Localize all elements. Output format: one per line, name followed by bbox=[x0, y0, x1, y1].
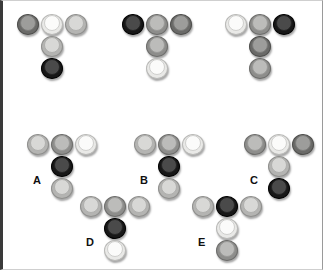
token-B-token-top-left[interactable] bbox=[134, 133, 154, 153]
token-face bbox=[20, 15, 36, 31]
token-face bbox=[83, 197, 99, 213]
token-q1-token-bottom bbox=[41, 57, 61, 77]
token-q2-token-top-center bbox=[146, 13, 166, 33]
token-q3-token-top-right bbox=[273, 13, 293, 33]
token-E-token-middle[interactable] bbox=[216, 217, 236, 237]
token-face bbox=[54, 135, 70, 151]
token-face bbox=[252, 15, 268, 31]
token-face bbox=[107, 219, 123, 235]
token-face bbox=[219, 219, 235, 235]
token-q2-token-middle bbox=[146, 35, 166, 55]
token-A-token-middle[interactable] bbox=[51, 155, 71, 175]
token-face bbox=[149, 15, 165, 31]
token-C-token-bottom[interactable] bbox=[268, 177, 288, 197]
token-D-token-top-left[interactable] bbox=[80, 195, 100, 215]
token-face bbox=[185, 135, 201, 151]
option-label-E[interactable]: E bbox=[198, 237, 206, 248]
token-face bbox=[54, 179, 70, 195]
token-face bbox=[295, 135, 311, 151]
token-face bbox=[149, 59, 165, 75]
token-D-token-top-right[interactable] bbox=[128, 195, 148, 215]
token-face bbox=[195, 197, 211, 213]
token-q3-token-top-left bbox=[225, 13, 245, 33]
token-face bbox=[271, 135, 287, 151]
token-C-token-middle[interactable] bbox=[268, 155, 288, 175]
option-label-D[interactable]: D bbox=[86, 237, 94, 248]
token-q1-token-top-center bbox=[41, 13, 61, 33]
token-face bbox=[78, 135, 94, 151]
token-face bbox=[161, 179, 177, 195]
token-face bbox=[107, 197, 123, 213]
token-E-token-top-left[interactable] bbox=[192, 195, 212, 215]
token-E-token-top-center[interactable] bbox=[216, 195, 236, 215]
token-face bbox=[131, 197, 147, 213]
token-face bbox=[30, 135, 46, 151]
token-B-token-top-right[interactable] bbox=[182, 133, 202, 153]
token-q3-token-top-center bbox=[249, 13, 269, 33]
option-label-C[interactable]: C bbox=[250, 175, 258, 186]
token-face bbox=[247, 135, 263, 151]
token-C-token-top-left[interactable] bbox=[244, 133, 264, 153]
option-label-A[interactable]: A bbox=[33, 175, 41, 186]
token-D-token-top-center[interactable] bbox=[104, 195, 124, 215]
token-B-token-top-center[interactable] bbox=[158, 133, 178, 153]
token-q2-token-bottom bbox=[146, 57, 166, 77]
puzzle-panel: ABCDE bbox=[0, 0, 323, 270]
token-face bbox=[173, 15, 189, 31]
token-q1-token-middle bbox=[41, 35, 61, 55]
token-face bbox=[44, 59, 60, 75]
token-q2-token-top-right bbox=[170, 13, 190, 33]
token-face bbox=[137, 135, 153, 151]
token-q3-token-bottom bbox=[249, 57, 269, 77]
token-face bbox=[54, 157, 70, 173]
token-face bbox=[219, 241, 235, 257]
token-face bbox=[107, 241, 123, 257]
token-q2-token-top-left bbox=[122, 13, 142, 33]
token-D-token-middle[interactable] bbox=[104, 217, 124, 237]
token-B-token-bottom[interactable] bbox=[158, 177, 178, 197]
token-face bbox=[161, 135, 177, 151]
token-B-token-middle[interactable] bbox=[158, 155, 178, 175]
token-face bbox=[243, 197, 259, 213]
token-q1-token-top-left bbox=[17, 13, 37, 33]
token-C-token-top-right[interactable] bbox=[292, 133, 312, 153]
token-q3-token-middle bbox=[249, 35, 269, 55]
token-face bbox=[228, 15, 244, 31]
token-face bbox=[44, 15, 60, 31]
token-face bbox=[252, 37, 268, 53]
token-A-token-bottom[interactable] bbox=[51, 177, 71, 197]
token-face bbox=[161, 157, 177, 173]
token-D-token-bottom[interactable] bbox=[104, 239, 124, 259]
token-face bbox=[125, 15, 141, 31]
token-E-token-top-right[interactable] bbox=[240, 195, 260, 215]
token-face bbox=[271, 157, 287, 173]
token-q1-token-top-right bbox=[65, 13, 85, 33]
token-face bbox=[68, 15, 84, 31]
token-A-token-top-left[interactable] bbox=[27, 133, 47, 153]
token-face bbox=[44, 37, 60, 53]
token-C-token-top-center[interactable] bbox=[268, 133, 288, 153]
token-face bbox=[149, 37, 165, 53]
token-E-token-bottom[interactable] bbox=[216, 239, 236, 259]
token-face bbox=[252, 59, 268, 75]
token-face bbox=[276, 15, 292, 31]
option-label-B[interactable]: B bbox=[140, 175, 148, 186]
token-A-token-top-right[interactable] bbox=[75, 133, 95, 153]
token-face bbox=[219, 197, 235, 213]
token-A-token-top-center[interactable] bbox=[51, 133, 71, 153]
token-face bbox=[271, 179, 287, 195]
